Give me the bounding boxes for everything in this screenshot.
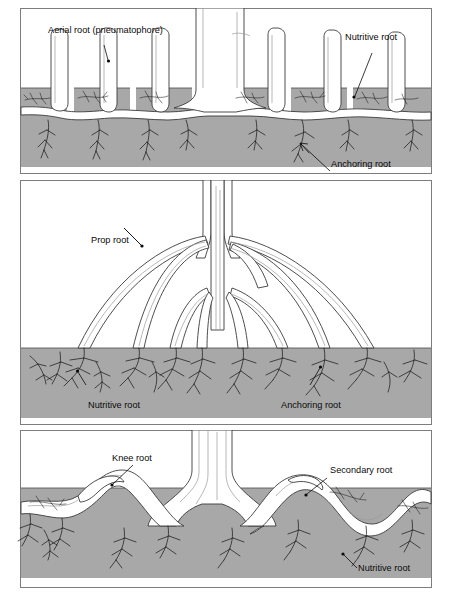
- leader-dot-prop: [140, 244, 143, 247]
- leader-dot-aerial: [107, 59, 110, 62]
- leader-dot-nutritive: [341, 552, 344, 555]
- prop-root-group-left: [78, 236, 213, 348]
- panel-aerial-root: [0, 8, 452, 174]
- panel-knee-root: [0, 430, 452, 588]
- leader-dot-nutritive: [352, 95, 355, 98]
- leader-dot-knee: [110, 483, 113, 486]
- prop-root-group-right: [226, 236, 374, 348]
- leader-dot-anchoring: [319, 365, 322, 368]
- mangrove-root-diagram: Aerial root (pneumatophore) Nutritive ro…: [0, 0, 452, 594]
- leader-dot-secondary: [304, 493, 307, 496]
- leader-dot-nutritive: [76, 369, 79, 372]
- deep-soil-layer: [21, 112, 431, 167]
- panel-prop-root: [0, 180, 452, 425]
